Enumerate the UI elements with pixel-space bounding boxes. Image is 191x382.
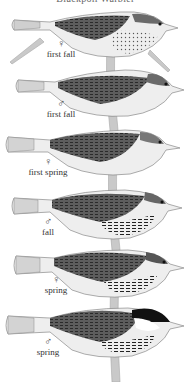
plate-label-5: ♀ spring	[40, 274, 72, 295]
female-symbol-icon: ♀	[24, 156, 72, 167]
plate-label-1: ♀ first fall	[44, 38, 78, 59]
plate-caption: fall	[36, 227, 60, 237]
bird-male-first-fall	[16, 70, 184, 116]
plate-caption: first spring	[24, 167, 72, 177]
plate-label-3: ♀ first spring	[24, 156, 72, 177]
plate-caption: first fall	[44, 49, 78, 59]
bird-female-first-fall	[12, 12, 178, 57]
plate-label-4: ♂ fall	[36, 216, 60, 237]
plate-label-2: ♂ first fall	[44, 98, 78, 119]
male-symbol-icon: ♂	[44, 98, 78, 109]
female-symbol-icon: ♀	[44, 38, 78, 49]
plate-caption: spring	[40, 285, 72, 295]
male-symbol-icon: ♂	[32, 336, 64, 347]
plate-caption: first fall	[44, 109, 78, 119]
plate-caption: spring	[32, 347, 64, 357]
bird-plate-illustration	[0, 0, 191, 382]
male-symbol-icon: ♂	[36, 216, 60, 227]
plate-label-6: ♂ spring	[32, 336, 64, 357]
female-symbol-icon: ♀	[40, 274, 72, 285]
